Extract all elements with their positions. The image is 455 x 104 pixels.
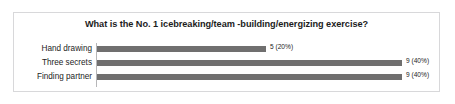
bar-row: Three secrets 9 (40%)	[14, 56, 441, 70]
value-label-finding-partner: 9 (40%)	[406, 71, 429, 78]
bar-finding-partner	[97, 74, 402, 80]
bar-hand-drawing	[97, 46, 266, 52]
bar-row: Finding partner 9 (40%)	[14, 70, 441, 84]
value-label-hand-drawing: 5 (20%)	[270, 43, 293, 50]
bar-row: Hand drawing 5 (20%)	[14, 42, 441, 56]
bar-three-secrets	[97, 60, 402, 66]
chart-title: What is the No. 1 icebreaking/team -buil…	[14, 19, 439, 29]
plot-area: Hand drawing 5 (20%) Three secrets 9 (40…	[14, 41, 441, 89]
category-label-hand-drawing: Hand drawing	[14, 44, 92, 53]
chart-container: What is the No. 1 icebreaking/team -buil…	[13, 12, 440, 92]
value-label-three-secrets: 9 (40%)	[406, 57, 429, 64]
category-label-finding-partner: Finding partner	[14, 72, 92, 81]
category-label-three-secrets: Three secrets	[14, 58, 92, 67]
